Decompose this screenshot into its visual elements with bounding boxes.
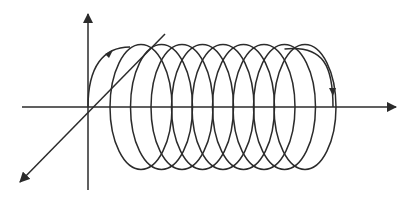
diagram-canvas <box>0 0 409 210</box>
coordinate-axes <box>20 14 396 190</box>
direction-arrow-icon <box>105 50 113 58</box>
helix-diagram <box>0 0 409 210</box>
